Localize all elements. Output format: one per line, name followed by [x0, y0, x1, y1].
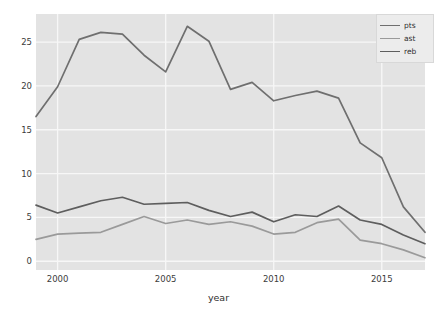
x-tick-label: 2000 — [47, 274, 69, 284]
y-tick-label: 15 — [0, 125, 32, 135]
x-tick-label: 2005 — [155, 274, 177, 284]
legend-swatch-reb — [380, 51, 400, 52]
legend-label-ast: ast — [404, 35, 415, 43]
x-tick-label: 2015 — [371, 274, 393, 284]
legend-swatch-ast — [380, 38, 400, 39]
legend-item-pts[interactable]: pts — [380, 19, 430, 32]
legend-label-pts: pts — [404, 22, 416, 30]
legend-label-reb: reb — [404, 48, 416, 56]
legend-item-ast[interactable]: ast — [380, 32, 430, 45]
line-chart: 0510152025 2000200520102015 year pts ast… — [0, 0, 437, 317]
legend: pts ast reb — [376, 14, 434, 63]
series-lines — [36, 14, 425, 270]
plot-area — [36, 14, 425, 270]
y-tick-label: 10 — [0, 169, 32, 179]
legend-item-reb[interactable]: reb — [380, 45, 430, 58]
y-tick-label: 0 — [0, 256, 32, 266]
y-tick-label: 5 — [0, 212, 32, 222]
series-line-pts — [36, 26, 425, 232]
series-line-ast — [36, 217, 425, 258]
y-tick-label: 20 — [0, 81, 32, 91]
x-axis-title: year — [0, 292, 437, 303]
y-tick-label: 25 — [0, 37, 32, 47]
series-line-reb — [36, 197, 425, 243]
legend-swatch-pts — [380, 25, 400, 26]
x-tick-label: 2010 — [263, 274, 285, 284]
